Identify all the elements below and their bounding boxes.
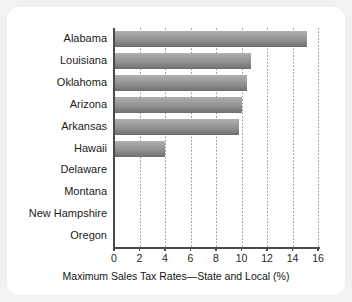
x-axis-tick-label: 14 [287,252,299,264]
x-axis-tick-label: 4 [162,252,168,264]
x-axis-tick [215,247,216,251]
x-axis-tick-label: 16 [312,252,324,264]
y-axis-category-label: Louisiana [7,50,107,72]
chart-panel: AlabamaLouisianaOklahomaArizonaArkansasH… [7,7,345,295]
x-axis-tick-label: 10 [236,252,248,264]
x-axis-title: Maximum Sales Tax Rates—State and Local … [7,270,345,282]
bar [114,119,239,135]
x-axis-tick-label: 12 [261,252,273,264]
y-axis-category-label: Oregon [7,225,107,247]
bar [114,53,251,69]
x-axis-tick [139,247,140,251]
y-axis-category-label: Montana [7,181,107,203]
bar [114,31,307,47]
y-axis-category-label: Oklahoma [7,72,107,94]
x-axis-tick [190,247,191,251]
x-axis-tick [164,247,165,251]
y-axis-line [113,28,115,248]
gridline [267,28,268,247]
y-axis-category-label: Hawaii [7,138,107,160]
y-axis-category-label: Arkansas [7,116,107,138]
x-axis-tick [266,247,267,251]
x-axis-tick-label: 2 [137,252,143,264]
x-axis-tick [292,247,293,251]
x-axis-tick-label: 8 [213,252,219,264]
y-axis-category-label: Alabama [7,28,107,50]
bar [114,141,165,157]
y-axis-category-label: New Hampshire [7,203,107,225]
bar [114,75,247,91]
x-axis-tick-label: 0 [111,252,117,264]
y-axis-category-label: Delaware [7,159,107,181]
x-axis-tick [113,247,114,251]
gridline [293,28,294,247]
x-axis-tick-label: 6 [188,252,194,264]
y-axis-category-label: Arizona [7,94,107,116]
x-axis-tick [241,247,242,251]
chart-figure: AlabamaLouisianaOklahomaArizonaArkansasH… [0,0,352,302]
bar [114,97,242,113]
gridline [318,28,319,247]
x-axis-tick [317,247,318,251]
